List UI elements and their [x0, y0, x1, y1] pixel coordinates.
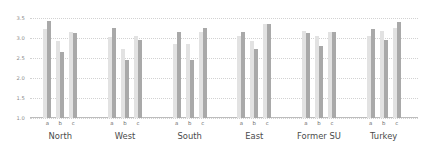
bar [203, 28, 207, 118]
cluster-tick-label: c [395, 120, 398, 126]
gridline [30, 38, 418, 39]
bar-cluster-b [56, 18, 64, 118]
bar-cluster-a [43, 18, 51, 118]
bar-cluster-c [69, 18, 77, 118]
bar-cluster-c [134, 18, 142, 118]
bar-group-former-su [302, 18, 336, 118]
bar [125, 60, 129, 118]
bar [190, 60, 194, 118]
group-axis-label: West [115, 131, 136, 141]
bar [267, 24, 271, 118]
cluster-tick-label: c [331, 120, 334, 126]
bar-cluster-c [393, 18, 401, 118]
bar [177, 32, 181, 118]
cluster-tick-label: c [137, 120, 140, 126]
bar-group-north [43, 18, 77, 118]
bar-cluster-a [367, 18, 375, 118]
bar [306, 33, 310, 118]
cluster-tick-label: b [123, 120, 126, 126]
gridline [30, 18, 418, 19]
bar-cluster-c [199, 18, 207, 118]
bar-chart: 1.01.52.02.53.03.5abcNorthabcWestabcSout… [0, 0, 431, 159]
bar [47, 21, 51, 118]
group-axis-label: Former SU [297, 131, 341, 141]
bar [138, 40, 142, 118]
bar [371, 29, 375, 118]
bar-cluster-b [186, 18, 194, 118]
bar-cluster-a [173, 18, 181, 118]
bar [73, 33, 77, 118]
cluster-tick-label: a [46, 120, 49, 126]
bar-cluster-a [302, 18, 310, 118]
bar-group-east [237, 18, 271, 118]
y-axis-tick-label: 1.0 [16, 115, 25, 121]
bar [332, 32, 336, 118]
cluster-tick-label: b [59, 120, 62, 126]
cluster-tick-label: b [317, 120, 320, 126]
cluster-tick-label: a [369, 120, 372, 126]
cluster-tick-label: c [201, 120, 204, 126]
bar [60, 52, 64, 118]
bar-group-south [173, 18, 207, 118]
gridline [30, 118, 418, 119]
bar-cluster-c [328, 18, 336, 118]
bar-cluster-a [237, 18, 245, 118]
x-axis-line [30, 117, 418, 118]
bar-cluster-c [263, 18, 271, 118]
bar-cluster-b [250, 18, 258, 118]
group-axis-label: South [177, 131, 201, 141]
cluster-tick-label: a [240, 120, 243, 126]
group-axis-label: Turkey [370, 131, 397, 141]
cluster-tick-label: a [110, 120, 113, 126]
bar-group-turkey [367, 18, 401, 118]
bar [112, 28, 116, 118]
cluster-tick-label: a [175, 120, 178, 126]
bar-group-west [108, 18, 142, 118]
cluster-tick-label: b [188, 120, 191, 126]
bar-cluster-b [121, 18, 129, 118]
bar [397, 22, 401, 118]
cluster-tick-label: c [72, 120, 75, 126]
bar-cluster-a [108, 18, 116, 118]
y-axis-tick-label: 1.5 [16, 95, 25, 101]
y-axis-tick-label: 3.0 [16, 35, 25, 41]
bar [254, 49, 258, 118]
y-axis-tick-label: 2.5 [16, 55, 25, 61]
gridline [30, 98, 418, 99]
gridline [30, 78, 418, 79]
bar [319, 46, 323, 118]
bar [241, 32, 245, 118]
cluster-tick-label: b [253, 120, 256, 126]
bar-cluster-b [380, 18, 388, 118]
group-axis-label: East [245, 131, 263, 141]
plot-area: 1.01.52.02.53.03.5abcNorthabcWestabcSout… [30, 18, 418, 118]
cluster-tick-label: b [382, 120, 385, 126]
bar-cluster-b [315, 18, 323, 118]
bar [384, 40, 388, 118]
y-axis-tick-label: 2.0 [16, 75, 25, 81]
group-axis-label: North [49, 131, 72, 141]
y-axis-tick-label: 3.5 [16, 15, 25, 21]
cluster-tick-label: c [266, 120, 269, 126]
cluster-tick-label: a [304, 120, 307, 126]
gridline [30, 58, 418, 59]
